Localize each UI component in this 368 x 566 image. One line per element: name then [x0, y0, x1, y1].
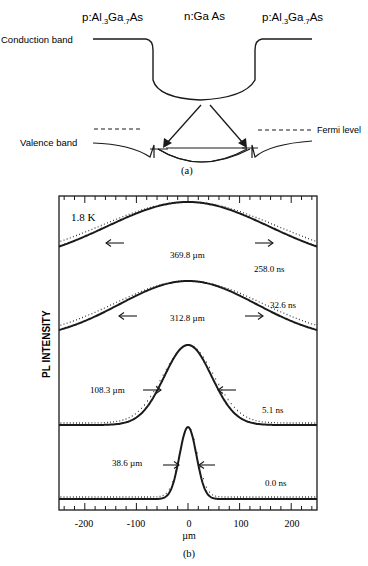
time-label-0ns: 0.0 ns — [265, 478, 287, 488]
caption-a: (a) — [181, 165, 193, 177]
x-tick-label: -200 — [75, 518, 93, 529]
figure: p:Al.3Ga.7As n:Ga As p:Al.3Ga.7As Conduc… — [0, 0, 368, 566]
x-tick-label: 100 — [234, 518, 249, 529]
x-tick-label: -100 — [127, 518, 145, 529]
x-tick-label: 200 — [285, 518, 300, 529]
x-axis-label: µm — [182, 530, 196, 541]
time-label-32ns: 32.6 ns — [270, 300, 297, 310]
fit-curve — [59, 427, 317, 499]
caption-b: (b) — [183, 548, 196, 560]
fwhm-label-32ns: 312.8 µm — [170, 313, 205, 323]
x-tick-labels: -200 -100 0 100 200 — [75, 518, 300, 529]
layer-label-center: n:Ga As — [184, 10, 225, 22]
panel-b-chart: PL INTENSITY -200 -100 0 100 200 µm (b) … — [41, 196, 317, 560]
fwhm-arrows — [106, 240, 273, 469]
arrow-right-line — [210, 105, 243, 143]
temperature-label: 1.8 K — [71, 211, 96, 223]
curve-annotations: 369.8 µm 258.0 ns 312.8 µm 32.6 ns 108.3… — [90, 250, 297, 488]
conduction-band-curve — [93, 39, 312, 100]
pl-curves — [59, 202, 317, 499]
time-label-258ns: 258.0 ns — [254, 264, 285, 274]
arrow-left-line — [167, 105, 201, 143]
conduction-band-label: Conduction band — [1, 34, 73, 45]
layer-label-left: p:Al.3Ga.7As — [82, 11, 143, 26]
valence-band-curve — [93, 141, 312, 162]
panel-a-band-diagram: p:Al.3Ga.7As n:Ga As p:Al.3Ga.7As Conduc… — [1, 10, 361, 177]
fwhm-label-0ns: 38.6 µm — [112, 458, 142, 468]
fwhm-label-5ns: 108.3 µm — [90, 385, 125, 395]
time-label-5ns: 5.1 ns — [262, 405, 284, 415]
data-points — [61, 202, 316, 241]
valence-band-well — [158, 149, 250, 162]
axis-ticks — [64, 196, 312, 510]
layer-label-right: p:Al.3Ga.7As — [262, 11, 323, 26]
fwhm-label-258ns: 369.8 µm — [170, 250, 205, 260]
y-axis-label: PL INTENSITY — [41, 310, 52, 378]
plot-frame — [59, 196, 317, 510]
fit-curve — [59, 202, 317, 247]
fermi-level-label: Fermi level — [317, 125, 361, 135]
x-tick-label: 0 — [187, 518, 192, 529]
valence-band-label: Valence band — [20, 137, 77, 148]
